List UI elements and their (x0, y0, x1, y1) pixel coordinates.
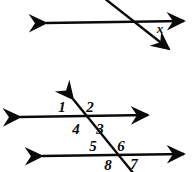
angle-label-2: 2 (85, 99, 94, 115)
angle-label-6: 6 (117, 138, 125, 154)
bottom-diagram: 1 2 4 3 5 6 8 7 (20, 99, 184, 172)
angle-label-x: x (156, 21, 164, 36)
upper-parallel-line (20, 115, 148, 117)
angle-label-1: 1 (58, 99, 66, 115)
lower-parallel-line (42, 154, 184, 156)
top-diagram: x (46, 0, 184, 49)
angle-label-5: 5 (89, 138, 97, 154)
top-horizontal-line (46, 21, 184, 23)
angle-label-4: 4 (71, 121, 80, 137)
geometry-figure: x 1 2 4 3 5 6 8 7 (0, 0, 196, 172)
geometry-canvas: x 1 2 4 3 5 6 8 7 (0, 0, 196, 172)
angle-label-7: 7 (130, 156, 138, 172)
angle-label-8: 8 (104, 157, 112, 172)
angle-label-3: 3 (95, 121, 104, 137)
